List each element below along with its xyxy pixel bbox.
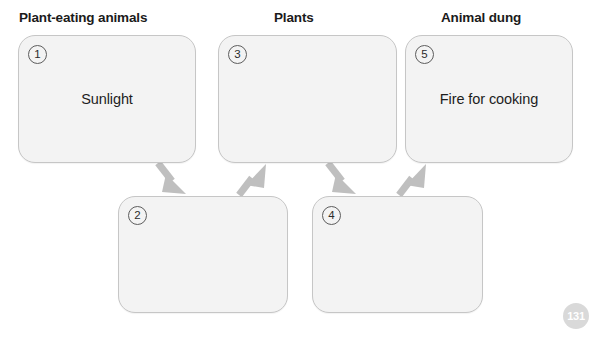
answer-box-5[interactable]: 5 Fire for cooking [405,35,573,163]
box-5-content: Fire for cooking [406,36,572,162]
column-heading-animal-dung: Animal dung [441,11,521,25]
arrow-2-to-3 [239,164,266,195]
column-heading-plant-eating-animals: Plant-eating animals [19,11,147,25]
box-5-text: Fire for cooking [430,90,548,108]
arrow-1-to-2 [158,163,186,194]
box-4-content [313,197,482,312]
answer-box-2[interactable]: 2 [118,196,288,313]
column-heading-plants: Plants [274,11,314,25]
flow-diagram: Plant-eating animals Plants Animal dung … [0,0,591,337]
clipped-caption [0,0,591,2]
box-2-content [119,197,287,312]
arrow-4-to-5 [399,164,426,195]
answer-box-4[interactable]: 4 [312,196,483,313]
page-number-badge: 131 [563,303,589,329]
answer-box-3[interactable]: 3 [218,35,397,163]
arrow-3-to-4 [328,163,356,194]
box-3-content [219,36,396,162]
box-1-content: Sunlight [19,36,195,162]
answer-box-1[interactable]: 1 Sunlight [18,35,196,163]
box-1-text: Sunlight [71,90,143,108]
